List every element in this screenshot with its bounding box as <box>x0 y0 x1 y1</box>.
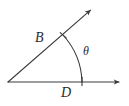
angle-arc <box>63 35 82 82</box>
diagonal-ray <box>8 10 91 82</box>
angle-label-theta: θ <box>83 45 89 57</box>
vertex-label-b: B <box>35 31 44 45</box>
vertex-label-d: D <box>61 86 71 100</box>
angle-diagram-figure: B θ D <box>0 0 129 106</box>
